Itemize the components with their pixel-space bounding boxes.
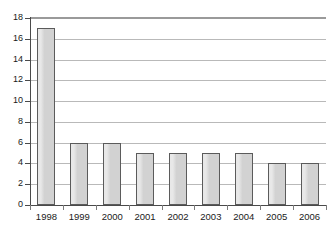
bar-2002 — [169, 153, 187, 205]
x-tick-2 — [96, 205, 97, 210]
x-tick-label-2001: 2001 — [129, 211, 162, 223]
y-tick-label-0: 0 — [1, 200, 23, 209]
x-tick-3 — [129, 205, 130, 210]
x-tick-1 — [63, 205, 64, 210]
y-tick-label-4: 4 — [1, 158, 23, 167]
bar-2004 — [235, 153, 253, 205]
y-tick-label-10: 10 — [1, 96, 23, 105]
y-tick-label-12: 12 — [1, 75, 23, 84]
x-tick-6 — [227, 205, 228, 210]
y-tick-label-16: 16 — [1, 34, 23, 43]
y-tick-label-18: 18 — [1, 13, 23, 22]
x-tick-label-2006: 2006 — [293, 211, 326, 223]
bar-2003 — [202, 153, 220, 205]
bar-1998 — [37, 28, 55, 205]
y-tick-label-14: 14 — [1, 55, 23, 64]
bar-1999 — [70, 143, 88, 205]
x-tick-8 — [293, 205, 294, 210]
bar-2001 — [136, 153, 154, 205]
x-axis-line — [30, 205, 327, 206]
x-tick-5 — [194, 205, 195, 210]
y-tick-label-2: 2 — [1, 179, 23, 188]
x-tick-label-1999: 1999 — [63, 211, 96, 223]
bar-series — [30, 18, 326, 205]
x-tick-label-2004: 2004 — [227, 211, 260, 223]
x-tick-0 — [30, 205, 31, 210]
bar-2006 — [301, 163, 319, 205]
x-tick-7 — [260, 205, 261, 210]
y-tick-label-8: 8 — [1, 117, 23, 126]
x-tick-4 — [162, 205, 163, 210]
x-tick-9 — [326, 205, 327, 210]
bar-2005 — [268, 163, 286, 205]
bar-chart: 024681012141618 199819992000200120022003… — [0, 0, 332, 236]
x-tick-label-2005: 2005 — [260, 211, 293, 223]
x-axis-tick-labels: 199819992000200120022003200420052006 — [30, 211, 326, 229]
x-tick-label-2003: 2003 — [194, 211, 227, 223]
y-axis-tick-labels: 024681012141618 — [0, 0, 23, 236]
x-tick-label-2002: 2002 — [162, 211, 195, 223]
x-tick-label-2000: 2000 — [96, 211, 129, 223]
bar-2000 — [103, 143, 121, 205]
y-tick-label-6: 6 — [1, 138, 23, 147]
x-tick-label-1998: 1998 — [30, 211, 63, 223]
